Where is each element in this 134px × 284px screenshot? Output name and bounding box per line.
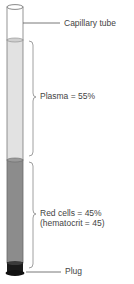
capillary-tube-label: Capillary tube — [64, 18, 116, 28]
plasma-label: Plasma = 55% — [40, 91, 95, 101]
plasma-layer — [7, 40, 23, 160]
capillary-tube-illustration — [0, 0, 134, 284]
plug-label: Plug — [65, 266, 82, 276]
red-cells-label: Red cells = 45% — [40, 208, 105, 218]
red-cells-layer — [7, 160, 23, 263]
red-cells-label-group: Red cells = 45% (hematocrit = 45) — [40, 208, 105, 228]
hematocrit-label: (hematocrit = 45) — [40, 218, 105, 228]
hematocrit-diagram: Capillary tube Plasma = 55% Red cells = … — [0, 0, 134, 284]
red-cells-brace — [29, 162, 36, 268]
plasma-brace — [29, 41, 36, 156]
